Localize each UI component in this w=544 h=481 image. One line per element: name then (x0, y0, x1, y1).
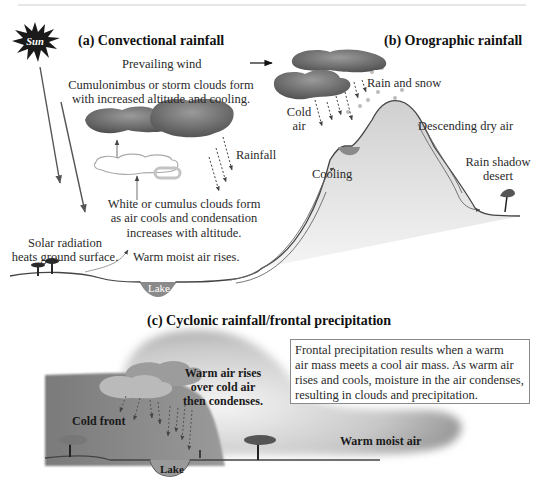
rainfall-label: Rainfall (236, 148, 276, 162)
cumulus-label: White or cumulus clouds form as air cool… (104, 197, 264, 240)
sun-label: Sun (20, 36, 50, 47)
rainfall-arrows (209, 137, 232, 191)
sun-ray-arrow (61, 102, 85, 212)
prevailing-wind-label: Prevailing wind (122, 57, 202, 71)
cold-air-label: Cold air (285, 105, 313, 134)
rain-shadow-label: Rain shadow desert (460, 155, 536, 184)
cooling-label: Cooling (312, 167, 352, 181)
warm-air-rises-over-label: Warm air rises over cold air then conden… (178, 366, 268, 408)
cyclonic-title: (c) Cyclonic rainfall/frontal precipitat… (147, 313, 391, 329)
sun-ray-arrow (40, 67, 60, 183)
warm-moist-air-label: Warm moist air (340, 435, 421, 449)
solar-radiation-label: Solar radiation heats ground surface. (6, 236, 124, 265)
frontal-info-box: Frontal precipitation results when a war… (290, 339, 530, 404)
lake-label-a: Lake (148, 282, 170, 295)
warm-air-rises-label: Warm moist air rises. (133, 250, 240, 264)
orographic-title: (b) Orographic rainfall (384, 33, 522, 49)
rain-snow-label: Rain and snow (367, 76, 441, 90)
cold-front-label: Cold front (72, 415, 125, 429)
orographic-cloud-icon (274, 50, 386, 100)
descending-air-label: Descending dry air (418, 119, 513, 133)
convectional-title: (a) Convectional rainfall (78, 33, 224, 49)
desert-tree-icon (500, 189, 515, 212)
ground-line (10, 268, 262, 294)
cumulonimbus-label: Cumulonimbus or storm clouds form with i… (66, 78, 256, 107)
cumulus-cloud-icon (94, 154, 177, 174)
lake-label-c: Lake (160, 463, 184, 476)
